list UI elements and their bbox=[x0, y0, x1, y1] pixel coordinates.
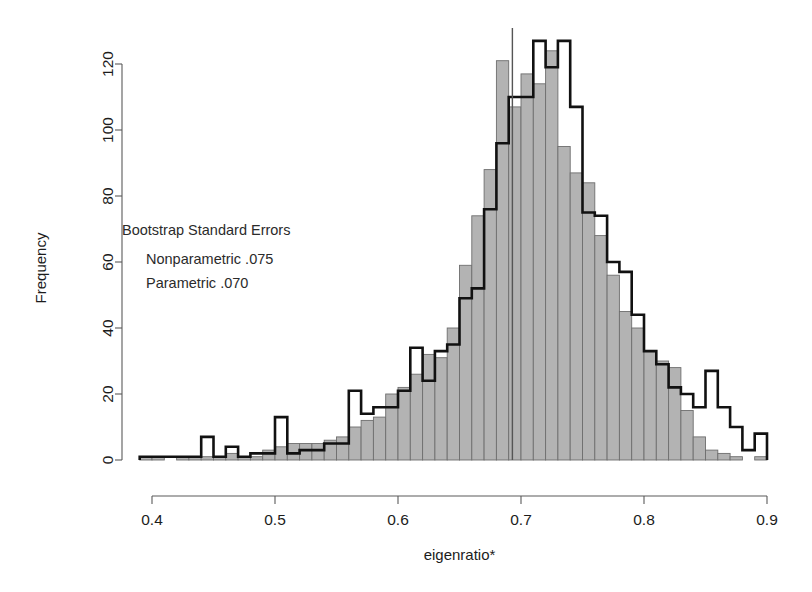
histogram-bar bbox=[730, 457, 742, 460]
histogram-bar bbox=[558, 147, 570, 461]
histogram-bar bbox=[644, 351, 656, 460]
histogram-bar bbox=[496, 61, 508, 460]
x-axis-tick-label: 0.5 bbox=[264, 511, 286, 528]
histogram-bar bbox=[349, 427, 361, 460]
histogram-figure: 0204060801001200.40.50.60.70.80.9eigenra… bbox=[0, 0, 812, 592]
histogram-bar bbox=[312, 444, 324, 461]
histogram-bar bbox=[398, 387, 410, 460]
histogram-bar bbox=[263, 450, 275, 460]
histogram-bar bbox=[275, 447, 287, 460]
annotation-heading: Bootstrap Standard Errors bbox=[122, 222, 290, 238]
histogram-bar bbox=[484, 170, 496, 460]
histogram-bar bbox=[423, 354, 435, 460]
x-axis-tick-label: 0.6 bbox=[387, 511, 409, 528]
histogram-bar bbox=[669, 368, 681, 460]
histogram-bar bbox=[521, 74, 533, 460]
histogram-bar bbox=[287, 444, 299, 461]
histogram-bar bbox=[595, 236, 607, 460]
x-axis-title: eigenratio* bbox=[424, 546, 496, 563]
histogram-bar bbox=[546, 51, 558, 460]
y-axis-tick-label: 20 bbox=[99, 385, 116, 403]
y-axis-tick-label: 120 bbox=[99, 51, 116, 77]
histogram-bar bbox=[250, 457, 262, 460]
histogram-bar bbox=[509, 107, 521, 460]
histogram-bar bbox=[226, 453, 238, 460]
y-axis-tick-label: 80 bbox=[99, 187, 116, 205]
histogram-bar bbox=[533, 84, 545, 460]
plot-svg: 0204060801001200.40.50.60.70.80.9eigenra… bbox=[0, 0, 812, 592]
histogram-bar bbox=[656, 361, 668, 460]
x-axis-tick-label: 0.4 bbox=[141, 511, 163, 528]
x-axis-tick-label: 0.9 bbox=[756, 511, 778, 528]
y-axis-tick-label: 60 bbox=[99, 253, 116, 271]
x-axis-tick-label: 0.7 bbox=[510, 511, 532, 528]
histogram-bar bbox=[201, 457, 213, 460]
histogram-bar bbox=[386, 394, 398, 460]
histogram-bar bbox=[583, 183, 595, 460]
histogram-bar bbox=[435, 358, 447, 460]
histogram-bar bbox=[693, 437, 705, 460]
y-axis-tick-label: 40 bbox=[99, 319, 116, 337]
histogram-bar bbox=[337, 437, 349, 460]
histogram-bar bbox=[607, 275, 619, 460]
histogram-bar bbox=[632, 328, 644, 460]
histogram-bar bbox=[619, 312, 631, 461]
histogram-bar bbox=[706, 450, 718, 460]
histogram-bar bbox=[300, 444, 312, 461]
histogram-bar bbox=[718, 453, 730, 460]
histogram-bar bbox=[472, 216, 484, 460]
histogram-bar bbox=[410, 374, 422, 460]
histogram-bar bbox=[460, 265, 472, 460]
histogram-bar bbox=[373, 417, 385, 460]
histogram-bar bbox=[570, 173, 582, 460]
annotation-parametric: Parametric .070 bbox=[146, 275, 248, 291]
annotation-nonparametric: Nonparametric .075 bbox=[146, 251, 273, 267]
y-axis-tick-label: 0 bbox=[99, 455, 116, 464]
histogram-bar bbox=[681, 411, 693, 461]
histogram-bar bbox=[755, 457, 767, 460]
histogram-bar bbox=[361, 420, 373, 460]
x-axis-tick-label: 0.8 bbox=[633, 511, 655, 528]
histogram-bar bbox=[447, 328, 459, 460]
y-axis-title: Frequency bbox=[32, 232, 49, 303]
y-axis-tick-label: 100 bbox=[99, 117, 116, 143]
